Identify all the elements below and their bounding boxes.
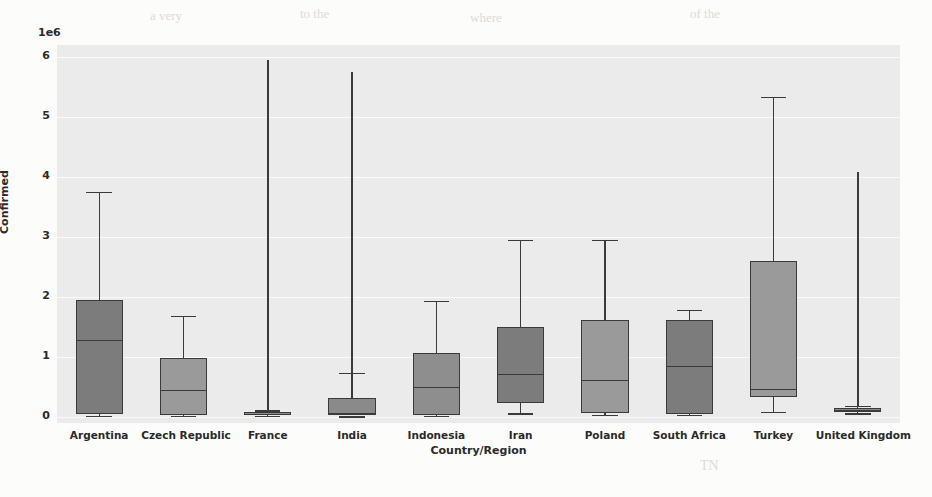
median-line <box>76 340 123 341</box>
y-tick-label: 0 <box>8 409 50 422</box>
whisker <box>689 310 690 320</box>
x-tick-label: Czech Republic <box>141 429 225 441</box>
whisker <box>604 240 605 320</box>
whisker-cap <box>677 415 702 416</box>
whisker-cap <box>424 416 449 417</box>
whisker-cap <box>255 410 280 411</box>
y-tick-label: 1 <box>8 349 50 362</box>
median-line <box>750 389 797 390</box>
whisker <box>183 316 184 359</box>
gridline <box>57 57 900 58</box>
x-tick-label: Iran <box>479 429 563 441</box>
x-tick-label: United Kingdom <box>816 429 900 441</box>
whisker <box>436 301 437 353</box>
whisker-cap <box>339 373 364 374</box>
outlier-points <box>351 72 353 373</box>
whisker-cap <box>508 240 533 241</box>
whisker <box>773 397 774 411</box>
box <box>581 320 628 414</box>
whisker-cap <box>339 416 364 417</box>
y-tick-label: 3 <box>8 229 50 242</box>
whisker-cap <box>592 240 617 241</box>
x-tick-label: India <box>310 429 394 441</box>
box <box>160 358 207 415</box>
x-tick-label: France <box>226 429 310 441</box>
x-axis-label: Country/Region <box>57 444 900 457</box>
median-line <box>497 374 544 375</box>
box <box>413 353 460 415</box>
whisker-cap <box>677 310 702 311</box>
x-tick-label: Argentina <box>57 429 141 441</box>
whisker-cap <box>255 416 280 417</box>
whisker-cap <box>761 97 786 98</box>
whisker-cap <box>86 416 111 417</box>
outlier-points <box>857 172 859 406</box>
y-tick-label: 5 <box>8 109 50 122</box>
box <box>76 300 123 414</box>
median-line <box>328 413 375 414</box>
boxplot-figure: a veryto thewhereof thethe numberconfirm… <box>0 0 932 497</box>
x-tick-label: Indonesia <box>394 429 478 441</box>
x-tick-label: Turkey <box>731 429 815 441</box>
median-line <box>666 366 713 367</box>
gridline <box>57 417 900 418</box>
whisker-cap <box>171 316 196 317</box>
whisker-cap <box>845 413 870 414</box>
whisker <box>351 373 352 398</box>
y-tick-label: 2 <box>8 289 50 302</box>
whisker <box>99 192 100 300</box>
median-line <box>413 387 460 388</box>
x-tick-label: Poland <box>563 429 647 441</box>
y-tick-label: 6 <box>8 49 50 62</box>
y-tick-label: 4 <box>8 169 50 182</box>
whisker-cap <box>86 192 111 193</box>
plot-area <box>57 45 900 423</box>
whisker <box>520 240 521 327</box>
whisker-cap <box>761 412 786 413</box>
box <box>750 261 797 397</box>
x-tick-label: South Africa <box>647 429 731 441</box>
whisker-cap <box>508 413 533 414</box>
whisker-cap <box>592 415 617 416</box>
median-line <box>160 390 207 391</box>
median-line <box>581 380 628 381</box>
whisker <box>520 403 521 413</box>
outlier-points <box>267 60 269 410</box>
whisker-cap <box>424 301 449 302</box>
whisker <box>773 97 774 261</box>
box <box>497 327 544 403</box>
whisker-cap <box>171 416 196 417</box>
whisker-cap <box>845 406 870 407</box>
